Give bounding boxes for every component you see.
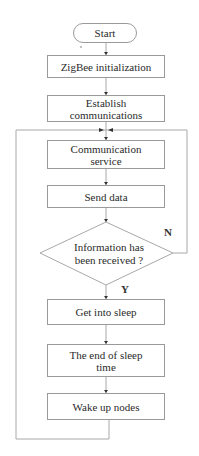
step-zigbee-initialization: ZigBee initialization	[47, 55, 165, 78]
step-label: Establish communications	[62, 97, 150, 121]
decision-no-label: N	[164, 226, 172, 238]
start-node: Start	[73, 23, 137, 43]
arrow-left-icon	[108, 128, 113, 132]
step-establish-communications: Establish communications	[47, 95, 165, 122]
step-label: The end of sleep time	[62, 349, 150, 373]
arrow-down-icon	[104, 219, 108, 222]
arrow-right-icon	[99, 128, 104, 132]
decision-label: Information has been received ?	[68, 241, 150, 267]
step-label: Wake up nodes	[73, 401, 140, 413]
step-communication-service: Communication service	[47, 140, 165, 169]
step-end-of-sleep-time: The end of sleep time	[47, 344, 165, 377]
step-wake-up-nodes: Wake up nodes	[47, 393, 165, 420]
start-label: Start	[95, 27, 116, 39]
step-label: Send data	[84, 191, 127, 203]
step-label: Communication service	[62, 143, 150, 167]
step-get-into-sleep: Get into sleep	[47, 299, 165, 325]
decision-yes-label: Y	[121, 283, 129, 295]
step-label: Get into sleep	[75, 306, 136, 318]
step-send-data: Send data	[47, 185, 165, 208]
step-label: ZigBee initialization	[61, 61, 152, 73]
